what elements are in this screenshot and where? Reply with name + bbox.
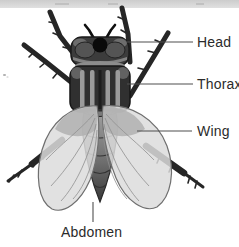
fly-right-eye: [105, 42, 125, 58]
fly-left-eye: [75, 42, 95, 58]
fly-thorax: [70, 66, 130, 112]
abdomen-label: Abdomen: [61, 224, 122, 240]
wing-label: Wing: [197, 123, 230, 139]
thorax-label: Thorax: [197, 76, 239, 92]
diagram-page: Head Thorax Wing Abdomen: [0, 0, 239, 247]
fly-right-wing: [103, 106, 172, 209]
fly-left-wing: [38, 106, 98, 210]
head-label: Head: [197, 34, 231, 50]
